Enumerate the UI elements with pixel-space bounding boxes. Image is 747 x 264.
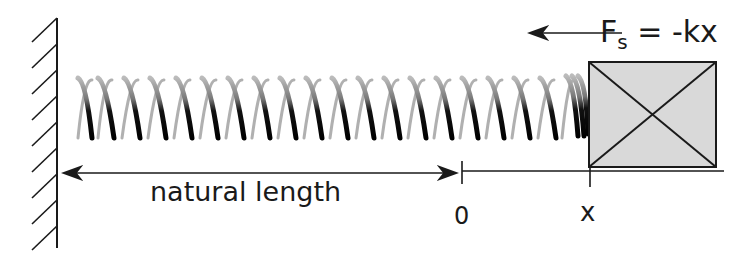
wall [32,18,57,250]
displacement-label: x [580,197,595,227]
force-equation-label: Fs = -kx [600,14,718,54]
force-subscript: s [617,30,627,54]
force-equation: = -kx [628,14,718,49]
origin-label: 0 [454,202,469,230]
natural-length-label: natural length [150,176,341,207]
spring [78,76,588,138]
force-symbol: F [600,14,617,49]
block [589,62,716,167]
